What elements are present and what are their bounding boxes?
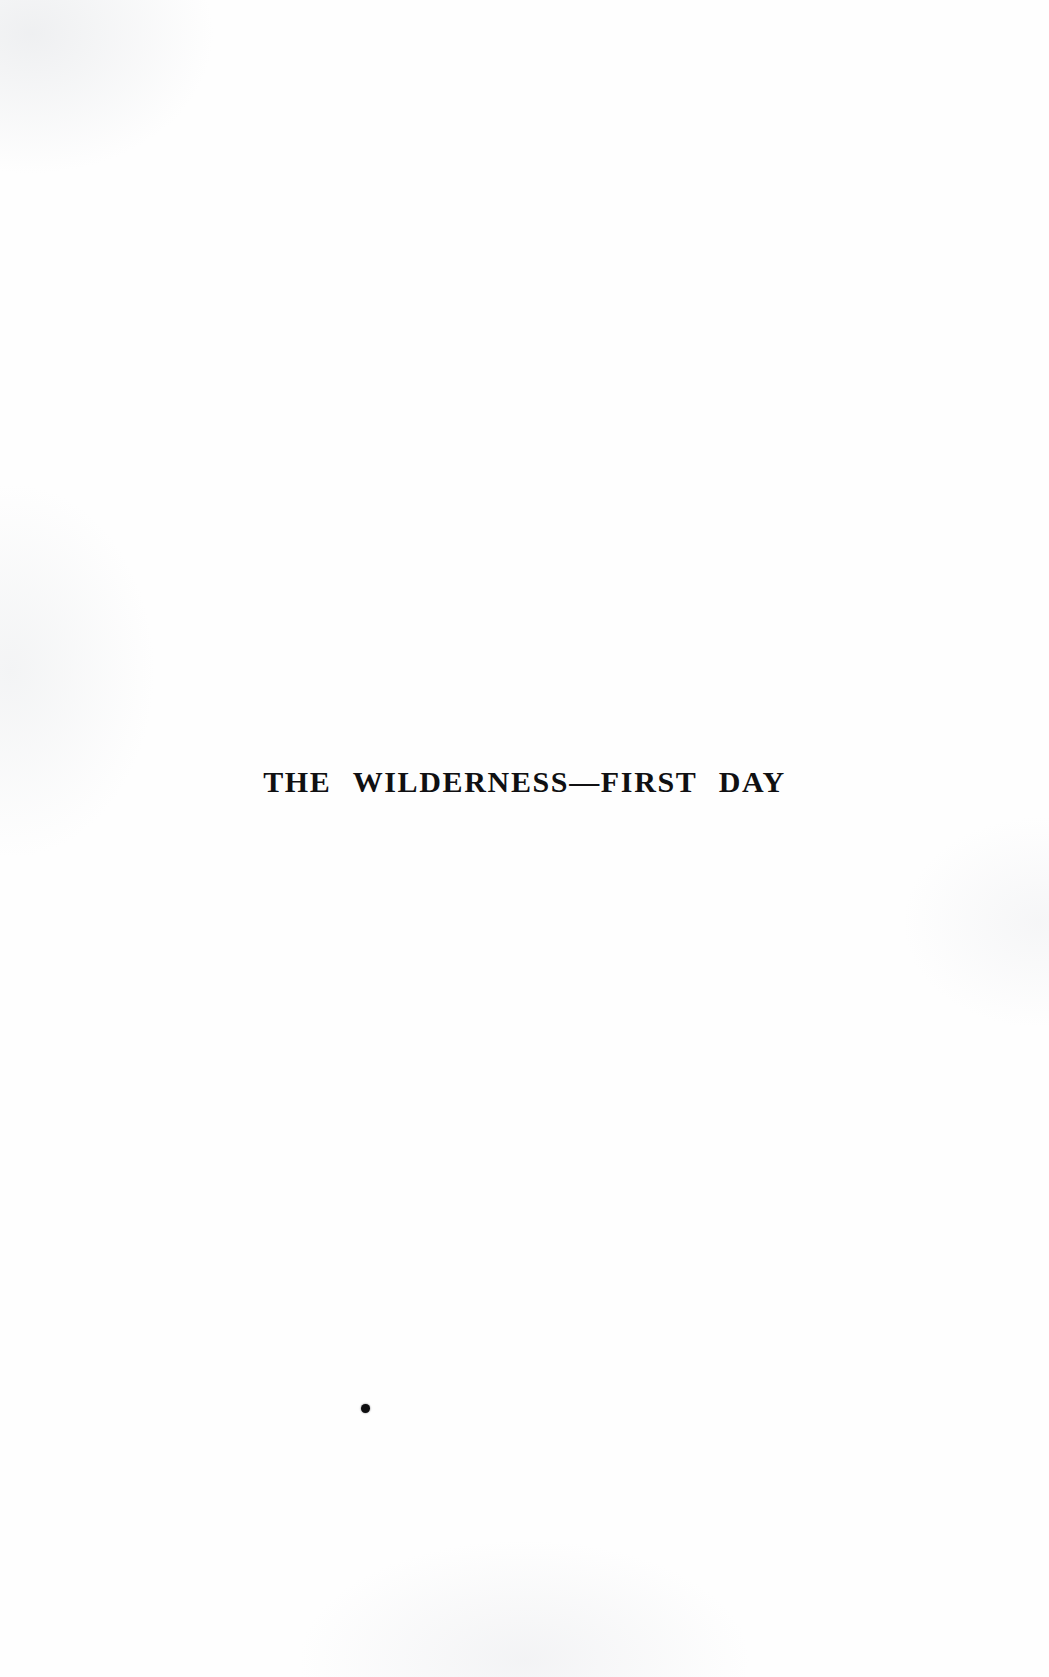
chapter-title: THE WILDERNESS—FIRST DAY bbox=[0, 762, 1049, 802]
scanned-page: THE WILDERNESS—FIRST DAY bbox=[0, 0, 1049, 1677]
ink-speck-mark bbox=[361, 1404, 370, 1413]
